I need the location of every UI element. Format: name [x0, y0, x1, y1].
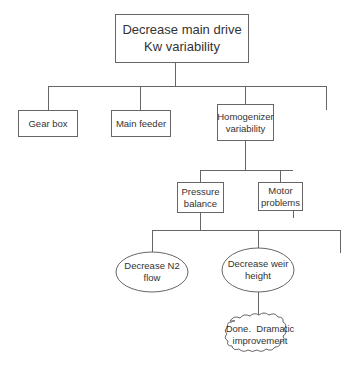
weir-label: Decrease weir height	[222, 248, 294, 292]
gearbox-label-line-1: Gear box	[28, 118, 67, 130]
done-label-line-2: improvement	[233, 335, 288, 347]
pressure-label: Pressure balance	[178, 183, 223, 212]
pressure-label-line-1: Pressure	[181, 186, 219, 198]
n2-label-line-1: Decrease N2	[124, 260, 179, 272]
mainfeeder-label-line-1: Main feeder	[116, 118, 166, 130]
motor-label-line-1: Motor	[268, 185, 292, 197]
homogenizer-label-line-1: Homogenizer	[217, 111, 274, 123]
root-label-line-2: Kw variability	[144, 39, 220, 55]
pressure-label-line-2: balance	[184, 198, 217, 210]
n2-label: Decrease N2 flow	[116, 252, 188, 292]
weir-label-line-1: Decrease weir	[228, 258, 289, 270]
homogenizer-label: Homogenizer variability	[218, 105, 273, 140]
n2-label-line-2: flow	[144, 272, 161, 284]
done-label: Done. Dramatic improvement	[224, 318, 296, 352]
homogenizer-label-line-2: variability	[226, 123, 266, 135]
weir-label-line-2: height	[245, 270, 271, 282]
done-label-line-1: Done. Dramatic	[226, 323, 295, 335]
motor-label-line-2: problems	[261, 197, 300, 209]
mainfeeder-label: Main feeder	[112, 111, 170, 136]
root-label-line-1: Decrease main drive	[122, 22, 241, 38]
gearbox-label: Gear box	[19, 111, 77, 136]
motor-label: Motor problems	[259, 183, 302, 210]
root-label: Decrease main drive Kw variability	[116, 15, 248, 62]
